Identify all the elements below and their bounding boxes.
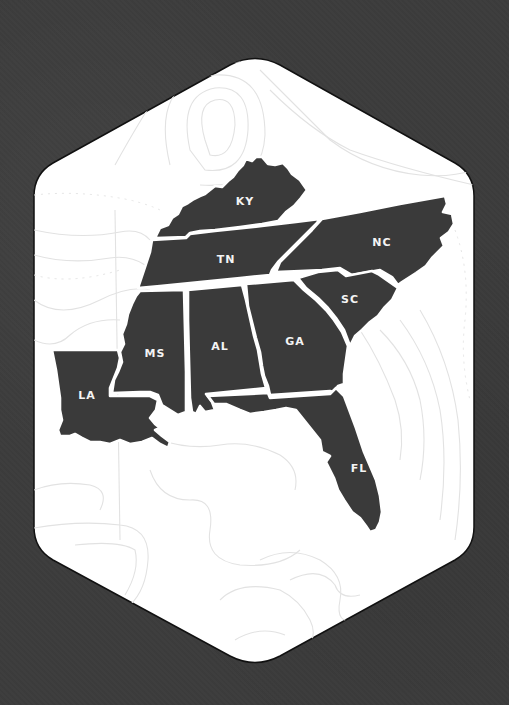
label-ms: MS (145, 347, 166, 360)
label-ga: GA (285, 335, 305, 348)
southeast-map: KY TN NC SC MS AL GA LA FL (0, 0, 509, 705)
label-ky: KY (236, 195, 255, 208)
label-tn: TN (217, 253, 236, 266)
label-sc: SC (341, 293, 359, 306)
label-fl: FL (351, 462, 368, 475)
label-nc: NC (372, 236, 391, 249)
label-al: AL (211, 340, 229, 353)
label-la: LA (78, 389, 96, 402)
